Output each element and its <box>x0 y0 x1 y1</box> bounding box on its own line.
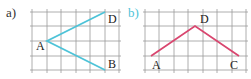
part-label-b: b) <box>128 5 139 20</box>
point-label-b-D: D <box>200 12 209 26</box>
point-label-a-A: A <box>36 39 45 53</box>
part-label-a: a) <box>6 5 16 20</box>
diagram-canvas: a) b) A D B A D C <box>0 0 251 79</box>
point-label-a-D: D <box>108 12 117 26</box>
point-label-b-A: A <box>152 58 161 72</box>
point-label-a-B: B <box>108 57 116 71</box>
point-label-b-C: C <box>230 58 238 72</box>
